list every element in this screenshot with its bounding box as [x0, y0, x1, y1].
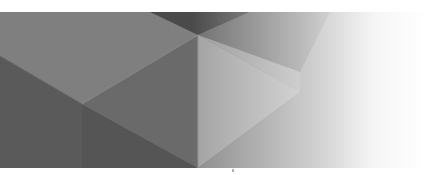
- page: [0, 0, 426, 175]
- triangle-facets-graphic: [0, 12, 426, 168]
- small-mark: [232, 169, 234, 172]
- geometric-banner-image: [0, 12, 426, 168]
